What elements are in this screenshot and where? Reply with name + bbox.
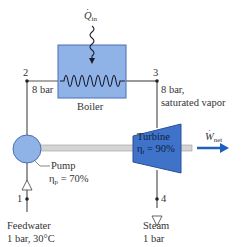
feedwater-flow-arrow (22, 180, 32, 190)
heat-input-dot: · (86, 3, 89, 15)
pump-eff-value: = 70% (61, 173, 89, 184)
state-4-desc-line1: Steam (143, 220, 169, 232)
state-3-desc-line1: 8 bar, (161, 84, 185, 96)
state-3-desc-line2: saturated vapor (161, 97, 225, 109)
state-4-desc-line2: 1 bar (143, 233, 164, 245)
work-output-dot: · (208, 124, 211, 136)
work-output-subscript: net (214, 136, 223, 144)
state-1-number: 1 (17, 193, 22, 204)
state-4-number: 4 (161, 193, 166, 204)
pump-leader-line (35, 161, 50, 166)
state-4-dot (155, 197, 159, 201)
boiler-box (58, 45, 126, 98)
state-2-desc: 8 bar (32, 84, 53, 96)
state-1-desc-line1: Feedwater (7, 220, 51, 232)
rankine-cycle-diagram (0, 0, 242, 247)
state-2-dot (25, 79, 29, 83)
heat-input-subscript: in (92, 15, 97, 23)
turbine-label: Turbine (137, 131, 170, 143)
state-3-number: 3 (153, 67, 158, 78)
state-1-desc-line2: 1 bar, 30°C (7, 233, 55, 245)
pump-label: Pump (51, 160, 76, 172)
turbine-eff-value: = 90% (147, 143, 175, 154)
state-2-number: 2 (23, 67, 28, 78)
pump-efficiency: ηp = 70% (49, 173, 88, 188)
turbine-eff-subscript: t (143, 148, 145, 156)
boiler-label: Boiler (77, 101, 103, 113)
state-1-dot (25, 197, 29, 201)
turbine-efficiency: ηt = 90% (137, 143, 175, 158)
pump-circle (13, 135, 41, 163)
pump-eff-subscript: p (55, 178, 59, 186)
state-3-dot (155, 79, 159, 83)
